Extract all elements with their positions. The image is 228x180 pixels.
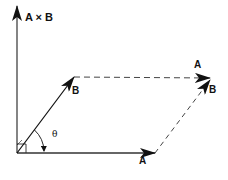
angle-theta-arc xyxy=(35,130,45,151)
vector-b-arrow xyxy=(17,77,74,153)
top-vector-a-label: A xyxy=(194,59,201,70)
cross-product-label: A × B xyxy=(25,11,53,23)
cross-product-diagram: A × B A B θ A B xyxy=(0,0,228,180)
dashed-vector-a-top xyxy=(74,77,210,78)
angle-theta-label: θ xyxy=(52,129,57,139)
right-vector-b-label: B xyxy=(209,84,216,95)
vector-a-label: A xyxy=(139,155,146,166)
dashed-vector-b-right xyxy=(155,80,210,153)
vector-b-label: B xyxy=(72,85,79,96)
